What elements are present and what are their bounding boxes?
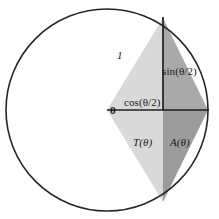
unit-radius-label: 1 [117, 50, 123, 61]
central-angle-theta-label: θ [110, 105, 116, 116]
cos-half-theta-label: cos(θ/2) [124, 97, 161, 108]
t-theta-region-label: T(θ) [133, 137, 152, 148]
figure-container: 1 sin(θ/2) cos(θ/2) θ T(θ) A(θ) [0, 0, 219, 219]
region-lower-left-triangle [107, 110, 163, 202]
sin-half-theta-label: sin(θ/2) [162, 66, 197, 77]
a-theta-region-label: A(θ) [170, 137, 190, 148]
